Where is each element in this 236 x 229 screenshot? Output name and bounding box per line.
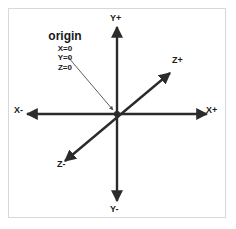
origin-title: origin	[30, 30, 100, 43]
axis-label-x-positive: X+	[206, 106, 217, 115]
origin-y-zero: Y=0	[30, 53, 100, 63]
axis-label-y-positive: Y+	[110, 14, 121, 23]
axis-label-z-negative: Z-	[57, 160, 66, 169]
axis-label-x-negative: X-	[14, 106, 23, 115]
origin-annotation: origin X=0 Y=0 Z=0	[30, 30, 100, 73]
coordinate-axes-figure: origin X=0 Y=0 Z=0 Y+ Y- X- X+ Z+ Z-	[0, 0, 236, 229]
origin-x-zero: X=0	[30, 44, 100, 54]
axis-label-z-positive: Z+	[172, 56, 183, 65]
axis-label-y-negative: Y-	[110, 205, 119, 214]
origin-point	[114, 111, 120, 117]
origin-z-zero: Z=0	[30, 63, 100, 73]
